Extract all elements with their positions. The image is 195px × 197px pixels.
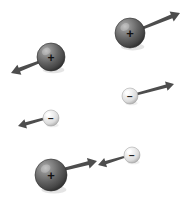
figure-background — [0, 0, 195, 197]
charge-sign-positive: + — [47, 168, 55, 183]
particle-diagram-canvas: ++−−−+ — [0, 0, 195, 197]
charge-sign-positive: + — [126, 26, 134, 41]
particle-diagram-svg: ++−−−+ — [0, 0, 195, 197]
charge-sign-negative: − — [48, 113, 54, 124]
charge-sign-negative: − — [129, 150, 135, 161]
charge-sign-positive: + — [47, 51, 54, 65]
charge-sign-negative: − — [127, 91, 133, 102]
